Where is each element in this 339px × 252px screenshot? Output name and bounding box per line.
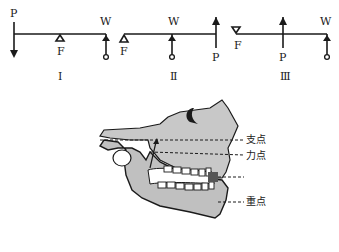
lever1-F-label: F [57, 46, 65, 57]
lever2-class-numeral: Ⅱ [170, 70, 177, 83]
lever3-F-label: F [234, 40, 242, 51]
fulcrum-triangle-icon [232, 27, 240, 33]
lever1-W-label: W [100, 16, 111, 27]
load-arrow-up-icon [168, 35, 176, 41]
fulcrum-triangle-icon [56, 35, 64, 41]
effort-arrow-up-icon [279, 17, 287, 25]
lever-diagrams [0, 0, 339, 252]
load-label: 重点 [246, 197, 266, 207]
lever1-P-label: P [10, 8, 17, 19]
lever1-class-numeral: Ⅰ [58, 70, 62, 83]
lever3-P-label: P [279, 52, 286, 63]
load-arrow-up-icon [323, 35, 331, 41]
load-arrow-up-icon [102, 35, 110, 41]
lever3-class-numeral: Ⅲ [280, 70, 291, 83]
effort-arrow-up-icon [212, 17, 220, 25]
fulcrum-triangle-icon [120, 35, 128, 42]
fulcrum-label: 支点 [246, 135, 266, 145]
lever3-W-label: W [320, 16, 331, 27]
lever2-P-label: P [212, 52, 219, 63]
effort-arrow-down-icon [10, 50, 18, 58]
jaw-illustration [100, 100, 244, 218]
lever2-W-label: W [168, 16, 179, 27]
effort-label: 力点 [246, 151, 266, 161]
lever2-F-label: F [120, 46, 128, 57]
